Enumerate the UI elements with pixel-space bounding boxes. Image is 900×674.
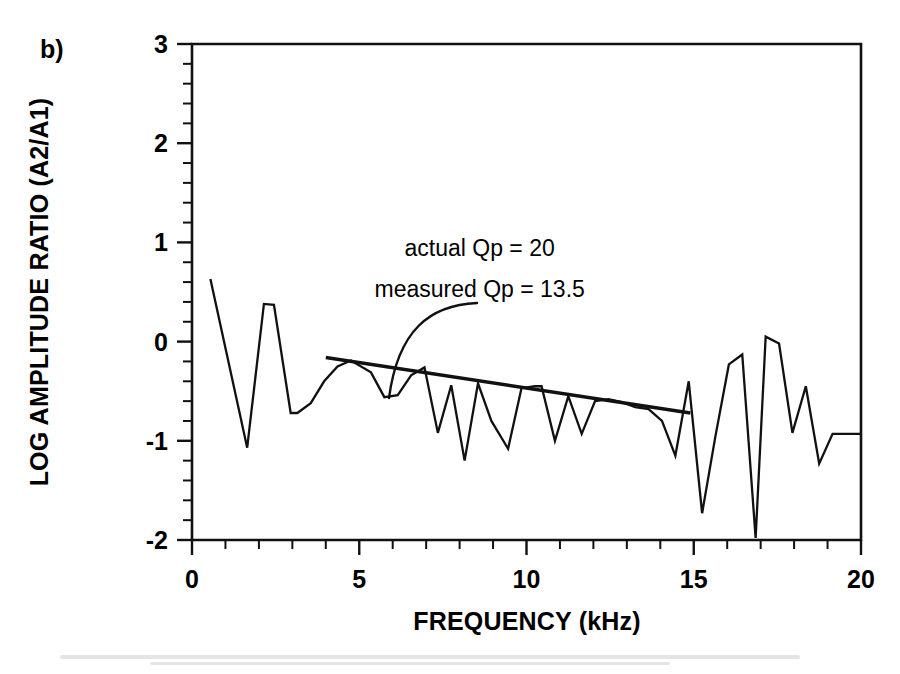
y-tick-label: -2 [146,526,168,554]
x-tick-label: 10 [513,565,541,593]
x-tick-label: 5 [352,565,366,593]
y-tick-label: 1 [154,228,168,256]
x-tick-label: 20 [847,565,875,593]
y-tick-label: 0 [154,328,168,356]
x-tick-label: 15 [680,565,708,593]
x-axis-title: FREQUENCY (kHz) [413,607,641,635]
annotation-actual-qp: actual Qp = 20 [405,235,555,261]
x-tick-label: 0 [185,565,199,593]
annotation-measured-qp: measured Qp = 13.5 [375,276,585,302]
chart-canvas: b) 3210-1-2 05101520 actual Qp = 20measu… [0,0,900,674]
y-tick-label: 3 [154,30,168,58]
y-axis-title: LOG AMPLITUDE RATIO (A2/A1) [25,98,53,487]
y-tick-label: 2 [154,129,168,157]
figure-container: b) 3210-1-2 05101520 actual Qp = 20measu… [0,0,900,674]
panel-label: b) [40,35,64,63]
y-tick-label: -1 [146,427,168,455]
